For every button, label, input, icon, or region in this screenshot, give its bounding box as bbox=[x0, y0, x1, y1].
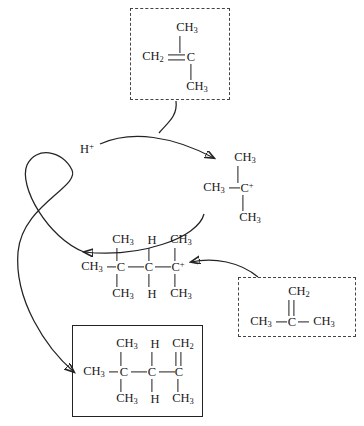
dimer-top-substituent-3: CH3 bbox=[170, 233, 192, 246]
double-bond-lower bbox=[168, 59, 185, 60]
dimer-bond-h-0 bbox=[107, 266, 116, 267]
proton-charge: + bbox=[89, 141, 94, 151]
dimer-top-substituent-1: CH3 bbox=[112, 233, 134, 246]
carbocation-structure: CH3 CH3 C+ CH3 bbox=[196, 148, 282, 220]
dimer-bond-down-1 bbox=[116, 274, 117, 287]
product-backbone-c1: C bbox=[120, 366, 128, 379]
double-bond-left-line bbox=[288, 300, 289, 316]
carbocation-bond-top bbox=[237, 166, 238, 183]
product-bond-h-0 bbox=[109, 371, 118, 372]
product-top-substituent-1: CH3 bbox=[116, 337, 138, 350]
methyl-top: CH3 bbox=[176, 21, 198, 34]
dimer-top-substituent-2: H bbox=[147, 234, 156, 247]
product-box: CH3 H CH2 CH3 C C bbox=[72, 325, 203, 417]
product-bottom-substituent-2: H bbox=[150, 393, 159, 406]
carbocation-center: C+ bbox=[240, 181, 253, 194]
proton-text: H bbox=[80, 142, 89, 156]
monomer-box-bottom: CH2 CH3 C CH3 bbox=[238, 277, 356, 337]
product-backbone-c3: C bbox=[175, 366, 183, 379]
bond-methyl-bottom bbox=[190, 64, 191, 80]
product-top-substituent-3: CH2 bbox=[172, 337, 194, 350]
product-bond-down-2 bbox=[151, 379, 152, 392]
carbocation-methyl-left: CH3 bbox=[203, 181, 225, 194]
product-backbone-c2: C bbox=[148, 366, 156, 379]
dimer-carbocation-structure: CH3 H CH3 CH3 C C C+ CH bbox=[78, 234, 198, 300]
methylene-top: CH2 bbox=[288, 285, 310, 298]
dimer-bottom-substituent-1: CH3 bbox=[112, 287, 134, 300]
product-bond-down-1 bbox=[120, 379, 121, 392]
bond-methyl-top bbox=[179, 36, 180, 53]
product-bond-h-1 bbox=[131, 371, 147, 372]
carbocation-bond-bottom bbox=[242, 195, 243, 211]
central-carbon: C bbox=[187, 51, 195, 64]
double-bond-right-line bbox=[293, 300, 294, 316]
dimer-backbone-c2: C bbox=[145, 261, 153, 274]
dimer-bottom-substituent-3: CH3 bbox=[170, 287, 192, 300]
product-top-substituent-2: H bbox=[150, 338, 159, 351]
double-bond-upper bbox=[168, 54, 185, 55]
carbocation-methyl-top: CH3 bbox=[234, 151, 256, 164]
dimer-bond-h-2 bbox=[155, 266, 171, 267]
dimer-bottom-substituent-2: H bbox=[147, 288, 156, 301]
product-bond-h-2 bbox=[159, 371, 175, 372]
arrow-monomer-bottom-to-dimer bbox=[191, 260, 258, 277]
product-bottom-substituent-1: CH3 bbox=[116, 392, 138, 405]
bond-right-bottom bbox=[298, 321, 309, 322]
reaction-mechanism-diagram: H+ CH3 CH2 C CH3 bbox=[0, 0, 364, 426]
arrow-monomer-to-carbocation-stem bbox=[159, 101, 176, 133]
monomer-box-top: CH3 CH2 C CH3 bbox=[130, 8, 230, 100]
product-bond-down-3 bbox=[177, 379, 178, 392]
proton-label: H+ bbox=[80, 142, 94, 156]
central-carbon-bottom: C bbox=[288, 316, 296, 329]
dimer-bond-up-3 bbox=[174, 248, 175, 261]
product-terminal-methyl: CH3 bbox=[83, 365, 105, 378]
isobutylene-structure-top: CH3 CH2 C CH3 bbox=[131, 9, 229, 99]
methyl-right-bottom: CH3 bbox=[313, 315, 335, 328]
dimer-terminal-methyl: CH3 bbox=[81, 260, 103, 273]
dimer-bond-h-1 bbox=[128, 266, 144, 267]
methyl-left-bottom: CH3 bbox=[250, 315, 272, 328]
dimer-backbone-c1: C bbox=[117, 261, 125, 274]
methyl-bottom: CH3 bbox=[186, 80, 208, 93]
dimer-bond-down-3 bbox=[174, 274, 175, 287]
dimer-backbone-c3: C+ bbox=[171, 260, 184, 273]
dimer-bond-down-2 bbox=[148, 274, 149, 287]
isobutylene-structure-bottom: CH2 CH3 C CH3 bbox=[239, 278, 355, 336]
product-bottom-substituent-3: CH3 bbox=[172, 392, 194, 405]
carbocation-bond-left bbox=[229, 187, 240, 188]
carbocation-methyl-bottom: CH3 bbox=[239, 211, 261, 224]
methylene-left: CH2 bbox=[142, 50, 164, 63]
product-structure: CH3 H CH2 CH3 C C bbox=[73, 326, 202, 416]
bond-left-bottom bbox=[276, 321, 287, 322]
